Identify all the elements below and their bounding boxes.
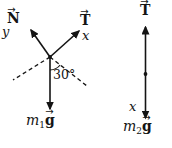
- vector-arrow-icon: →: [7, 5, 15, 15]
- x-axis-label-incline: x: [82, 29, 89, 42]
- vector-arrow-icon: →: [142, 113, 150, 123]
- free-body-diagram: →N y →T x 30° m1→g →T x m2→g: [0, 0, 172, 148]
- incline-angle-label: 30°: [53, 69, 75, 82]
- body-point-m1: [48, 55, 52, 59]
- tension-label-hanging: →T: [140, 3, 150, 17]
- y-axis-label: y: [2, 25, 9, 38]
- vector-arrow-icon: →: [45, 107, 53, 117]
- tension-label-incline: →T: [80, 13, 90, 27]
- normal-force-vector: [31, 30, 50, 57]
- incline-surface-dashed-line: [13, 57, 50, 80]
- x-axis-label-hanging: x: [129, 100, 136, 113]
- vector-arrow-icon: →: [80, 7, 88, 17]
- normal-force-label: →N: [7, 11, 20, 25]
- tension-vector-incline: [50, 31, 79, 57]
- weight-label-m2: m2→g: [123, 119, 152, 136]
- body-point-m2: [144, 72, 148, 76]
- weight-label-m1: m1→g: [26, 113, 55, 130]
- vector-arrow-icon: →: [140, 0, 148, 7]
